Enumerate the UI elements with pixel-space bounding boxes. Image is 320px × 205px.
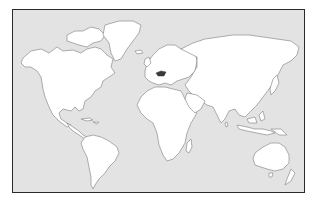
sri-lanka xyxy=(225,122,228,127)
caribbean xyxy=(81,118,99,124)
world-map xyxy=(13,10,305,193)
australia xyxy=(253,143,289,171)
map-frame xyxy=(12,9,305,193)
madagascar xyxy=(186,139,192,153)
central-america xyxy=(67,123,87,139)
new-zealand xyxy=(285,169,295,185)
north-america xyxy=(21,47,115,127)
iceland xyxy=(135,50,143,54)
south-america xyxy=(81,135,119,189)
arctic-islands xyxy=(67,27,105,47)
greenland xyxy=(103,21,141,61)
tasmania xyxy=(269,173,273,177)
